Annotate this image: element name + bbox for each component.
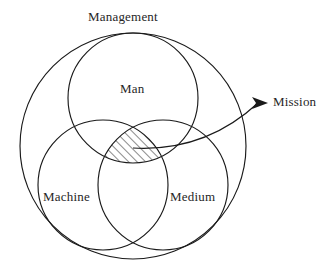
- venn-diagram: Management Man Machine Medium Mission: [0, 0, 334, 280]
- venn-diagram-canvas: [0, 0, 334, 280]
- medium-label: Medium: [170, 190, 215, 203]
- management-label: Management: [88, 10, 158, 23]
- mission-label: Mission: [273, 95, 316, 108]
- man-label: Man: [120, 82, 144, 95]
- machine-label: Machine: [43, 190, 90, 203]
- mission-arrowhead-icon: [252, 97, 268, 109]
